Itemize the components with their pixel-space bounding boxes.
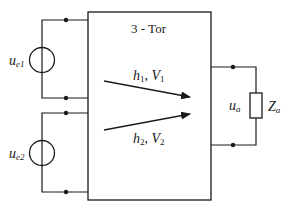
terminal-dot	[64, 96, 68, 100]
three-port-block	[88, 12, 211, 200]
block-title: 3 - Tor	[131, 21, 167, 36]
path-1-arrow-icon	[104, 81, 190, 97]
three-port-diagram: 3 - Tor ue1 ue2 h1, V1 h2, V2 ua Za	[0, 0, 292, 210]
source-1: ue1	[9, 18, 88, 100]
impedance-resistor-icon	[250, 93, 262, 118]
path-2-arrow-icon	[104, 114, 190, 130]
terminal-dot	[231, 143, 235, 147]
terminal-dot	[64, 190, 68, 194]
source-1-label: ue1	[9, 53, 25, 69]
terminal-dot	[231, 65, 235, 69]
circuit-svg: 3 - Tor ue1 ue2 h1, V1 h2, V2 ua Za	[0, 0, 292, 210]
source-2-label: ue2	[9, 146, 25, 162]
terminal-dot	[64, 18, 68, 22]
impedance-label: Za	[268, 99, 281, 115]
source-2: ue2	[9, 111, 88, 194]
output-port: ua Za	[211, 65, 281, 147]
path-2-label: h2, V2	[133, 131, 165, 147]
terminal-dot	[64, 111, 68, 115]
output-voltage-label: ua	[229, 98, 241, 114]
path-1-label: h1, V1	[133, 68, 165, 84]
